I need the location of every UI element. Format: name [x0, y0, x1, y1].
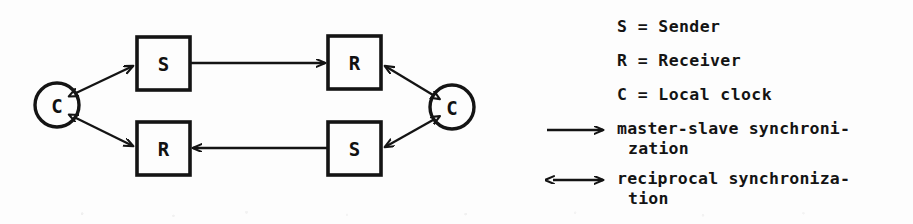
- receiver-left-label: R: [158, 138, 170, 160]
- node-clock-left: C: [35, 83, 79, 127]
- legend-entry-master-slave: master-slave synchroni- zation: [617, 119, 913, 159]
- receiver-right-label: R: [349, 52, 361, 74]
- legend-entry-reciprocal-line1: reciprocal synchroniza-: [617, 169, 913, 189]
- edge-clock-left-sender-left: [76, 66, 133, 93]
- sender-left-label: S: [158, 53, 169, 75]
- node-sender-right: S: [328, 122, 381, 175]
- sender-right-label: S: [349, 138, 360, 160]
- legend-definition-sender: S = Sender: [617, 17, 720, 36]
- bidirectional-arrow-icon: [545, 171, 611, 189]
- figure-page: C S R R S C: [0, 0, 913, 224]
- legend-entry-reciprocal: reciprocal synchroniza- tion: [617, 169, 913, 209]
- node-clock-right: C: [430, 85, 474, 129]
- legend-definition-receiver: R = Receiver: [617, 51, 741, 70]
- legend-entry-reciprocal-line2: tion: [617, 189, 913, 209]
- edge-clock-right-sender-right: [385, 120, 433, 147]
- legend-entry-master-slave-line1: master-slave synchroni-: [617, 119, 913, 139]
- clock-right-label: C: [446, 97, 457, 119]
- node-receiver-left: R: [137, 122, 190, 175]
- edge-clock-left-receiver-left: [76, 118, 133, 146]
- legend-entry-master-slave-line2: zation: [617, 139, 913, 159]
- legend: S = Sender R = Receiver C = Local clock …: [617, 0, 913, 224]
- node-sender-left: S: [137, 37, 190, 90]
- clock-left-label: C: [51, 95, 62, 117]
- node-receiver-right: R: [328, 36, 381, 89]
- legend-definition-local-clock: C = Local clock: [617, 85, 772, 104]
- edge-clock-right-receiver-right: [385, 66, 433, 95]
- right-arrow-icon: [545, 121, 611, 139]
